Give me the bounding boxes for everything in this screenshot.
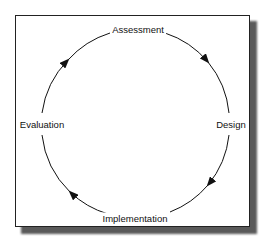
arrow-design-implementation: [208, 135, 229, 185]
node-implementation: Implementation: [101, 213, 170, 224]
node-assessment: Assessment: [110, 24, 166, 35]
node-evaluation: Evaluation: [18, 119, 66, 130]
node-design: Design: [214, 119, 248, 130]
arrow-assessment-design: [165, 33, 208, 62]
arrow-implementation-evaluation: [70, 192, 108, 214]
arrow-evaluation-assessment: [42, 60, 68, 113]
